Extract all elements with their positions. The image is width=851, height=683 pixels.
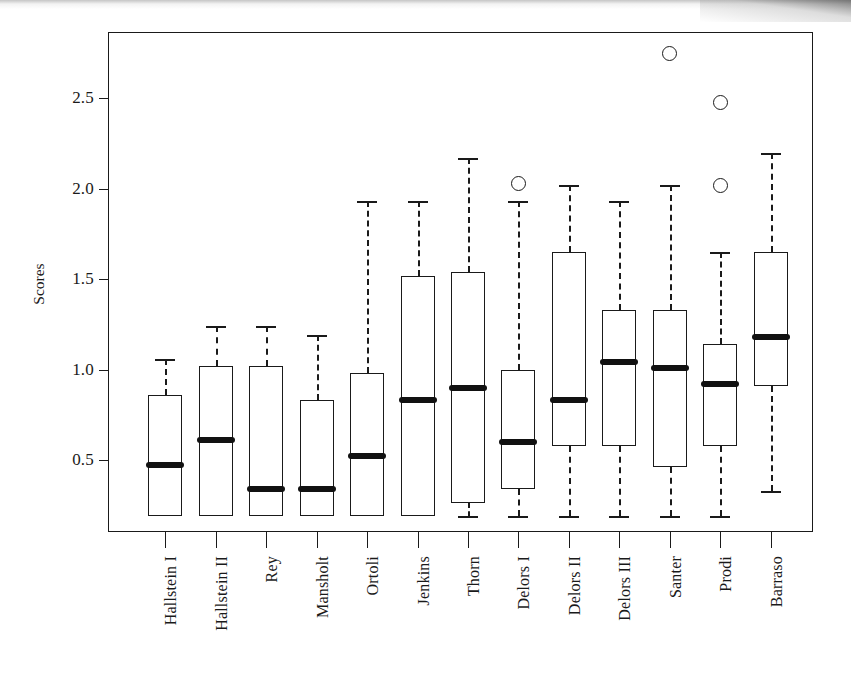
x-axis-category-label: Hallstein I — [162, 556, 180, 625]
y-axis-tick-label: 2.0 — [72, 179, 94, 199]
x-axis-tick — [165, 532, 166, 548]
x-axis-category-label: Delors I — [515, 556, 533, 610]
x-axis-tick — [266, 532, 267, 548]
y-axis-tick-label: 1.5 — [72, 269, 94, 289]
x-axis-category-label: Delors II — [566, 556, 584, 615]
x-axis-tick — [771, 532, 772, 548]
x-axis-tick — [367, 532, 368, 548]
x-axis-category-label: Prodi — [717, 556, 735, 592]
x-axis-category-label: Jenkins — [415, 556, 433, 605]
y-axis-tick — [99, 279, 109, 280]
x-axis-category-label: Ortoli — [364, 556, 382, 595]
x-axis-category-label: Hallstein II — [213, 556, 231, 631]
y-axis-tick — [99, 189, 109, 190]
y-axis-tick-label: 0.5 — [72, 450, 94, 470]
y-axis-tick-label: 1.0 — [72, 360, 94, 380]
x-axis-tick — [720, 532, 721, 548]
x-axis-category-label: Rey — [263, 556, 281, 582]
page-scan-artifact-corner — [700, 0, 851, 22]
x-axis-tick — [670, 532, 671, 548]
x-axis-tick — [468, 532, 469, 548]
y-axis-tick — [99, 460, 109, 461]
y-axis-tick — [99, 98, 109, 99]
x-axis-tick — [518, 532, 519, 548]
x-axis-tick — [569, 532, 570, 548]
plot-area — [108, 32, 813, 532]
y-axis-tick — [99, 370, 109, 371]
x-axis-category-label: Delors III — [616, 556, 634, 621]
x-axis-category-label: Barraso — [768, 556, 786, 607]
boxplot-figure: Scores 0.51.01.52.02.5 Hallstein IHallst… — [0, 0, 851, 683]
x-axis-tick — [418, 532, 419, 548]
y-axis-tick-label: 2.5 — [72, 88, 94, 108]
x-axis-category-label: Mansholt — [314, 556, 332, 618]
x-axis-category-label: Thorn — [465, 556, 483, 596]
y-axis-tick-labels: 0.51.01.52.02.5 — [0, 0, 94, 683]
x-axis-tick — [317, 532, 318, 548]
x-axis-tick — [619, 532, 620, 548]
x-axis-category-label: Santer — [667, 556, 685, 598]
x-axis-tick — [216, 532, 217, 548]
